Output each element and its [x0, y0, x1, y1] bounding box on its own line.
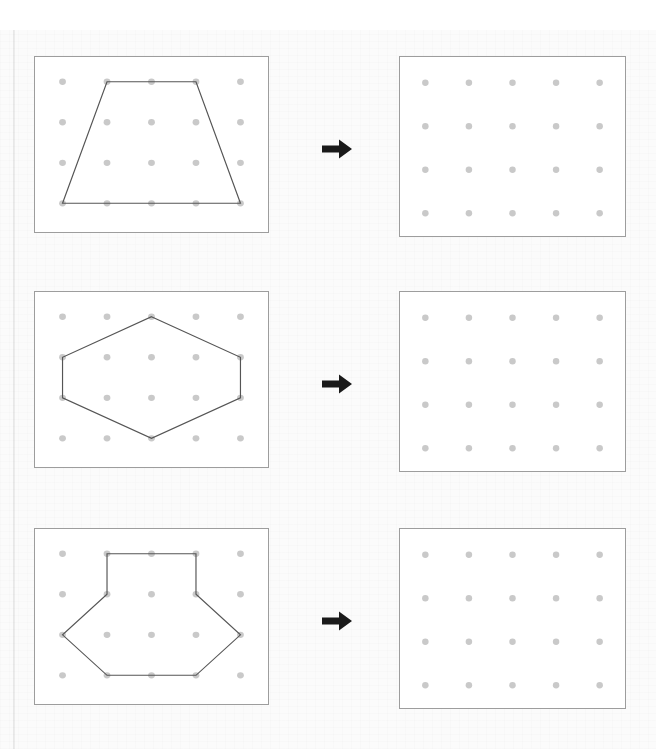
geoboard-dot[interactable]	[509, 80, 515, 86]
source-geoboard-panel[interactable]	[34, 291, 269, 468]
geoboard-dot[interactable]	[237, 435, 244, 441]
geoboard-dot[interactable]	[422, 210, 428, 216]
geoboard-dot[interactable]	[553, 682, 559, 688]
geoboard-dot[interactable]	[237, 591, 244, 597]
geoboard-dot[interactable]	[422, 682, 428, 688]
geoboard-dot[interactable]	[466, 552, 472, 558]
target-geoboard-panel[interactable]	[399, 528, 626, 709]
geoboard-dot[interactable]	[596, 402, 602, 408]
geoboard-dot[interactable]	[509, 595, 515, 601]
geoboard-dot[interactable]	[553, 595, 559, 601]
geoboard-dot[interactable]	[104, 435, 111, 441]
geoboard-dot[interactable]	[466, 639, 472, 645]
geoboard-dot[interactable]	[148, 160, 155, 166]
geoboard-dot[interactable]	[553, 552, 559, 558]
geoboard-dot[interactable]	[466, 123, 472, 129]
geoboard-dot[interactable]	[509, 315, 515, 321]
geoboard-dot[interactable]	[509, 402, 515, 408]
geoboard-dot[interactable]	[466, 595, 472, 601]
geoboard-dot[interactable]	[509, 123, 515, 129]
geoboard-dot[interactable]	[104, 314, 111, 320]
geoboard-dot[interactable]	[596, 80, 602, 86]
geoboard-dot[interactable]	[596, 445, 602, 451]
geoboard-dot[interactable]	[509, 358, 515, 364]
geoboard-dot[interactable]	[596, 639, 602, 645]
geoboard-dot[interactable]	[422, 595, 428, 601]
geoboard-dot[interactable]	[509, 682, 515, 688]
geoboard-dot[interactable]	[509, 210, 515, 216]
geoboard-dot[interactable]	[509, 552, 515, 558]
geoboard-dot[interactable]	[422, 358, 428, 364]
geoboard-dot[interactable]	[509, 639, 515, 645]
geoboard-dot[interactable]	[104, 354, 111, 360]
geoboard-dot[interactable]	[466, 358, 472, 364]
geoboard-dot[interactable]	[596, 552, 602, 558]
geoboard-dot[interactable]	[509, 445, 515, 451]
geoboard-dot[interactable]	[422, 80, 428, 86]
geoboard-dot[interactable]	[59, 79, 66, 85]
geoboard-dot[interactable]	[422, 123, 428, 129]
geoboard-dot[interactable]	[553, 167, 559, 173]
geoboard-dot[interactable]	[59, 435, 66, 441]
geoboard-dot[interactable]	[237, 79, 244, 85]
geoboard-dot[interactable]	[466, 315, 472, 321]
target-geoboard-panel[interactable]	[399, 291, 626, 472]
geoboard-dot[interactable]	[193, 435, 200, 441]
geoboard-dot[interactable]	[422, 167, 428, 173]
geoboard-dot[interactable]	[422, 639, 428, 645]
geoboard-dot[interactable]	[237, 672, 244, 678]
geoboard-dot[interactable]	[466, 210, 472, 216]
geoboard-dot[interactable]	[422, 315, 428, 321]
source-geoboard-panel[interactable]	[34, 528, 269, 705]
geoboard-dot[interactable]	[104, 119, 111, 125]
geoboard-dot[interactable]	[596, 167, 602, 173]
geoboard-dot[interactable]	[148, 591, 155, 597]
geoboard-dot[interactable]	[596, 123, 602, 129]
geoboard-dot[interactable]	[59, 551, 66, 557]
geoboard-dot[interactable]	[553, 80, 559, 86]
geoboard-dot[interactable]	[148, 632, 155, 638]
geoboard-dot[interactable]	[59, 591, 66, 597]
geoboard-dot[interactable]	[466, 80, 472, 86]
geoboard-dot[interactable]	[553, 315, 559, 321]
geoboard-dot[interactable]	[466, 445, 472, 451]
geoboard-dot[interactable]	[422, 552, 428, 558]
geoboard-dot[interactable]	[553, 358, 559, 364]
geoboard-dot[interactable]	[104, 160, 111, 166]
geoboard-dot[interactable]	[466, 682, 472, 688]
geoboard-dot[interactable]	[509, 167, 515, 173]
geoboard-dot[interactable]	[596, 315, 602, 321]
geoboard-dot[interactable]	[104, 632, 111, 638]
geoboard-dot[interactable]	[553, 123, 559, 129]
geoboard-dot[interactable]	[553, 445, 559, 451]
geoboard-dot[interactable]	[59, 119, 66, 125]
source-geoboard-panel[interactable]	[34, 56, 269, 233]
geoboard-dot[interactable]	[596, 595, 602, 601]
geoboard-dot[interactable]	[237, 160, 244, 166]
geoboard-dot[interactable]	[148, 119, 155, 125]
geoboard-dot[interactable]	[59, 160, 66, 166]
geoboard-dot[interactable]	[193, 354, 200, 360]
geoboard-dot[interactable]	[553, 639, 559, 645]
geoboard-dot[interactable]	[237, 119, 244, 125]
geoboard-dot[interactable]	[59, 672, 66, 678]
geoboard-dot[interactable]	[193, 119, 200, 125]
geoboard-dot[interactable]	[148, 395, 155, 401]
geoboard-dot[interactable]	[59, 314, 66, 320]
geoboard-dot[interactable]	[596, 682, 602, 688]
geoboard-dot[interactable]	[596, 358, 602, 364]
target-geoboard-panel[interactable]	[399, 56, 626, 237]
geoboard-dot[interactable]	[193, 395, 200, 401]
geoboard-dot[interactable]	[553, 402, 559, 408]
geoboard-dot[interactable]	[553, 210, 559, 216]
geoboard-dot[interactable]	[237, 314, 244, 320]
geoboard-dot[interactable]	[466, 402, 472, 408]
geoboard-dot[interactable]	[193, 314, 200, 320]
geoboard-dot[interactable]	[596, 210, 602, 216]
geoboard-dot[interactable]	[104, 395, 111, 401]
geoboard-dot[interactable]	[422, 445, 428, 451]
geoboard-dot[interactable]	[193, 160, 200, 166]
geoboard-dot[interactable]	[237, 551, 244, 557]
geoboard-dot[interactable]	[422, 402, 428, 408]
geoboard-dot[interactable]	[466, 167, 472, 173]
